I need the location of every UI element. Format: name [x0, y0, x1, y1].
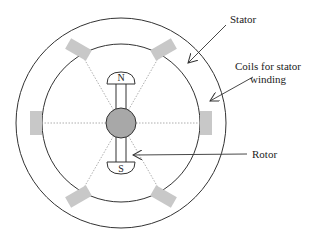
rotor-core	[106, 108, 136, 138]
rotor-arrow	[133, 154, 247, 155]
coil	[65, 38, 92, 60]
coil	[65, 185, 92, 207]
coil	[150, 38, 177, 60]
coil	[200, 111, 212, 135]
coils-label-line1: Coils for stator	[235, 60, 301, 72]
coil	[150, 185, 177, 207]
coils-label-line2: winding	[250, 73, 287, 85]
stator-arrow	[188, 25, 226, 63]
motor-diagram: N S Stator Coils for stator winding Roto…	[0, 0, 329, 242]
south-pole-label: S	[118, 163, 124, 174]
coil	[30, 111, 42, 135]
rotor: N S	[106, 72, 136, 174]
coils-arrow	[210, 77, 253, 101]
north-pole-label: N	[117, 72, 124, 83]
rotor-label: Rotor	[252, 148, 277, 160]
stator-label: Stator	[230, 13, 257, 25]
